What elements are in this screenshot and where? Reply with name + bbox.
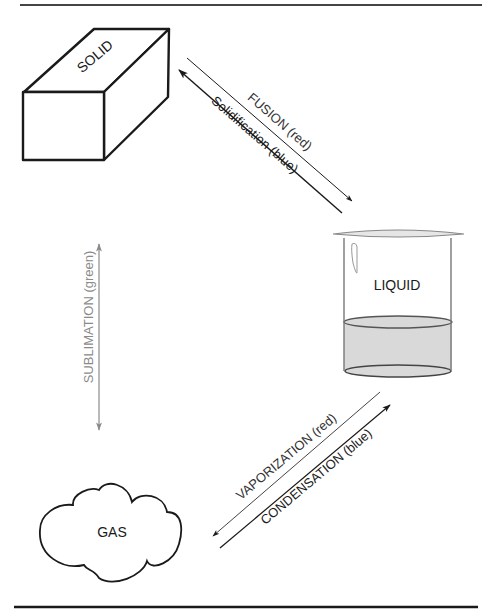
fusion-arrow xyxy=(187,58,352,201)
phase-change-diagram: SOLID FUSION (red) Solidification (blue)… xyxy=(0,0,489,614)
sublimation-label: SUBLIMATION (green) xyxy=(81,251,96,384)
liquid-beaker xyxy=(333,230,464,377)
gas-label: GAS xyxy=(97,524,127,540)
vaporization-label: VAPORIZATION (red) xyxy=(233,410,339,502)
liquid-label: LIQUID xyxy=(374,277,421,293)
vaporization-arrow xyxy=(213,392,380,536)
